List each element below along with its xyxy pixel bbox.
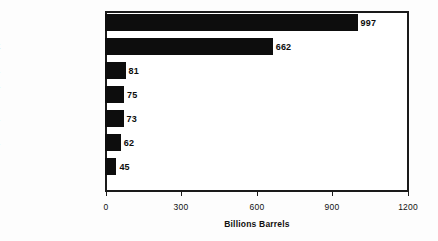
x-tick-label: 1200 bbox=[398, 202, 418, 212]
x-tick-label: 300 bbox=[174, 202, 189, 212]
bar-value-label: 75 bbox=[124, 90, 137, 100]
bar-value-label: 997 bbox=[358, 18, 377, 28]
x-tick-label: 0 bbox=[104, 202, 109, 212]
bar-chart: World Total 997 Middle East 662 N. Ameri… bbox=[0, 0, 438, 241]
bar[interactable] bbox=[105, 134, 121, 151]
x-axis-title: Billions Barrels bbox=[105, 219, 409, 229]
x-tick-label: 600 bbox=[250, 202, 265, 212]
bar-value-label: 45 bbox=[116, 162, 129, 172]
x-tick bbox=[332, 192, 333, 196]
bar-track: 81 bbox=[105, 62, 409, 79]
x-tick bbox=[106, 192, 107, 196]
bar-value-label: 62 bbox=[121, 138, 134, 148]
bar-value-label: 81 bbox=[126, 66, 139, 76]
bar-track: 662 bbox=[105, 38, 409, 55]
bar[interactable] bbox=[105, 110, 124, 127]
bar-track: 75 bbox=[105, 86, 409, 103]
x-tick-label: 900 bbox=[325, 202, 340, 212]
x-tick bbox=[181, 192, 182, 196]
bar[interactable] bbox=[105, 38, 273, 55]
bar-track: 62 bbox=[105, 134, 409, 151]
bar[interactable] bbox=[105, 62, 126, 79]
x-tick bbox=[408, 192, 409, 196]
bar-value-label: 662 bbox=[273, 42, 292, 52]
bar-value-label: 73 bbox=[124, 114, 137, 124]
bar[interactable] bbox=[105, 86, 124, 103]
bar-track: 45 bbox=[105, 158, 409, 175]
bar[interactable] bbox=[105, 14, 358, 31]
bar-track: 997 bbox=[105, 14, 409, 31]
bar-track: 73 bbox=[105, 110, 409, 127]
x-axis: 0 300 600 900 1200 bbox=[0, 192, 438, 198]
x-tick bbox=[257, 192, 258, 196]
bar[interactable] bbox=[105, 158, 116, 175]
